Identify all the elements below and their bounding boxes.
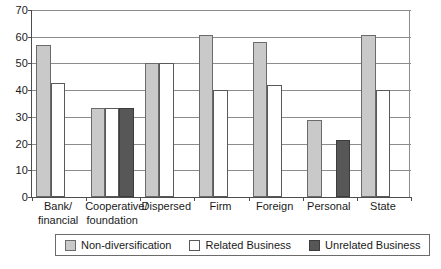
y-axis-tick-labels: 010203040506070 [0, 0, 28, 215]
bar [336, 140, 350, 197]
category-label-line: financial [31, 214, 85, 228]
category-label-line: Bank/ [44, 200, 72, 212]
x-axis-category-label: Cooperative/foundation [85, 200, 139, 227]
x-axis-category-label: Foreign [248, 200, 302, 214]
category-label-line: Personal [307, 200, 350, 212]
category-label-line: State [370, 200, 396, 212]
bar [159, 63, 173, 197]
category-label-line: Foreign [256, 200, 293, 212]
x-axis-category-label: Firm [193, 200, 247, 214]
bar [119, 108, 133, 197]
bar [105, 108, 119, 197]
y-axis-tick-label: 50 [0, 58, 28, 69]
legend-item: Unrelated Business [309, 239, 420, 251]
y-axis-tick-label: 70 [0, 5, 28, 16]
bar [36, 45, 50, 197]
y-axis-tick-label: 30 [0, 111, 28, 122]
chart-legend: Non-diversificationRelated BusinessUnrel… [55, 234, 430, 256]
bar [361, 35, 375, 197]
y-axis-tick-label: 10 [0, 165, 28, 176]
bar [267, 85, 281, 197]
x-axis-category-label: Bank/financial [31, 200, 85, 227]
bar [213, 90, 227, 197]
bar [145, 63, 159, 197]
category-label-line: Firm [209, 200, 231, 212]
bar [199, 35, 213, 197]
legend-label: Related Business [205, 239, 291, 251]
category-label-line: Dispersed [142, 200, 192, 212]
y-axis-tick-label: 40 [0, 85, 28, 96]
x-axis-category-label: State [356, 200, 410, 214]
bars-layer [31, 10, 410, 197]
legend-item: Related Business [189, 239, 291, 251]
bar [376, 90, 390, 197]
y-axis-tick-label: 20 [0, 138, 28, 149]
plot-area: 010203040506070 Bank/financialCooperativ… [0, 0, 441, 215]
x-axis-category-label: Dispersed [139, 200, 193, 214]
legend-item: Non-diversification [65, 239, 171, 251]
legend-label: Non-diversification [81, 239, 171, 251]
bar [51, 83, 65, 197]
bar [307, 120, 321, 197]
x-axis-tick [411, 197, 412, 201]
x-axis-category-label: Personal [302, 200, 356, 214]
grouped-bar-chart: 010203040506070 Bank/financialCooperativ… [0, 0, 441, 269]
bar [91, 108, 105, 197]
category-label-line: Cooperative/ [85, 200, 147, 212]
legend-swatch-icon [65, 240, 76, 251]
legend-swatch-icon [189, 240, 200, 251]
legend-label: Unrelated Business [325, 239, 420, 251]
y-axis-tick-label: 60 [0, 31, 28, 42]
bar [253, 42, 267, 197]
category-label-line: foundation [85, 214, 139, 228]
legend-swatch-icon [309, 240, 320, 251]
y-axis-tick-label: 0 [0, 192, 28, 203]
